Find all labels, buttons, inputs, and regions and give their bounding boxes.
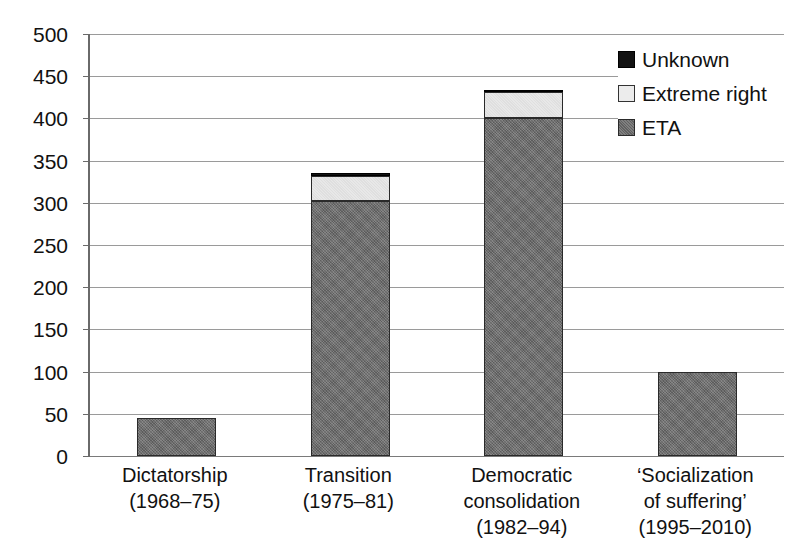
gridline-0 [90, 456, 784, 457]
y-tick-mark-450 [83, 76, 90, 77]
chart-legend: UnknownExtreme rightETA [618, 42, 790, 144]
x-axis-label-line: Democratic [435, 462, 609, 488]
x-axis-label-0: Dictatorship(1968–75) [88, 462, 262, 514]
legend-item-eta[interactable]: ETA [618, 110, 790, 144]
y-tick-label-200: 200 [0, 277, 68, 298]
y-tick-mark-100 [83, 372, 90, 373]
y-tick-label-450: 450 [0, 66, 68, 87]
legend-label: ETA [642, 117, 681, 138]
x-axis-label-line: (1968–75) [88, 488, 262, 514]
gridline-200 [90, 287, 784, 288]
y-tick-label-300: 300 [0, 192, 68, 213]
y-tick-mark-150 [83, 329, 90, 330]
gridline-150 [90, 329, 784, 330]
legend-item-unknown[interactable]: Unknown [618, 42, 790, 76]
bar-segment-unknown[interactable] [311, 173, 390, 176]
gridline-500 [90, 34, 784, 35]
x-axis-label-line: (1975–81) [262, 488, 436, 514]
y-tick-label-350: 350 [0, 150, 68, 171]
y-tick-label-50: 50 [0, 403, 68, 424]
y-tick-mark-250 [83, 245, 90, 246]
x-axis-label-line: ‘Socialization [609, 462, 783, 488]
x-axis-label-line: of suffering’ [609, 488, 783, 514]
bar-segment-extreme-right[interactable] [311, 176, 390, 201]
y-tick-label-250: 250 [0, 235, 68, 256]
y-tick-label-150: 150 [0, 319, 68, 340]
x-axis-label-3: ‘Socializationof suffering’(1995–2010) [609, 462, 783, 540]
legend-label: Extreme right [642, 83, 767, 104]
bar-group[interactable] [484, 90, 563, 456]
y-tick-mark-400 [83, 118, 90, 119]
x-axis-label-1: Transition(1975–81) [262, 462, 436, 514]
gridline-300 [90, 203, 784, 204]
y-tick-mark-50 [83, 414, 90, 415]
y-tick-mark-350 [83, 161, 90, 162]
y-tick-label-100: 100 [0, 361, 68, 382]
bar-chart: 500450400350300250200150100500 Dictators… [0, 0, 795, 558]
y-tick-mark-0 [83, 456, 90, 457]
bar-segment-eta[interactable] [311, 201, 390, 456]
bar-segment-eta[interactable] [658, 372, 737, 456]
bar-segment-extreme-right[interactable] [484, 92, 563, 117]
legend-swatch-eta-icon [618, 119, 635, 136]
legend-swatch-extreme-right-icon [618, 85, 635, 102]
x-axis-label-line: consolidation [435, 488, 609, 514]
x-axis-label-line: Dictatorship [88, 462, 262, 488]
legend-swatch-unknown-icon [618, 51, 635, 68]
y-tick-mark-300 [83, 203, 90, 204]
bar-group[interactable] [658, 372, 737, 456]
x-axis-label-line: (1982–94) [435, 514, 609, 540]
x-axis-label-line: (1995–2010) [609, 514, 783, 540]
y-tick-label-400: 400 [0, 108, 68, 129]
bar-group[interactable] [137, 418, 216, 456]
legend-label: Unknown [642, 49, 730, 70]
bar-segment-eta[interactable] [137, 418, 216, 456]
y-axis: 500450400350300250200150100500 [0, 0, 68, 558]
legend-item-extreme-right[interactable]: Extreme right [618, 76, 790, 110]
x-axis-label-2: Democraticconsolidation(1982–94) [435, 462, 609, 540]
y-tick-label-0: 0 [0, 446, 68, 467]
x-axis-label-line: Transition [262, 462, 436, 488]
gridline-250 [90, 245, 784, 246]
bar-segment-eta[interactable] [484, 118, 563, 456]
x-axis: Dictatorship(1968–75)Transition(1975–81)… [88, 462, 782, 558]
y-tick-mark-200 [83, 287, 90, 288]
y-tick-mark-500 [83, 34, 90, 35]
bar-segment-unknown[interactable] [484, 90, 563, 93]
y-tick-label-500: 500 [0, 24, 68, 45]
bar-group[interactable] [311, 173, 390, 456]
gridline-350 [90, 161, 784, 162]
